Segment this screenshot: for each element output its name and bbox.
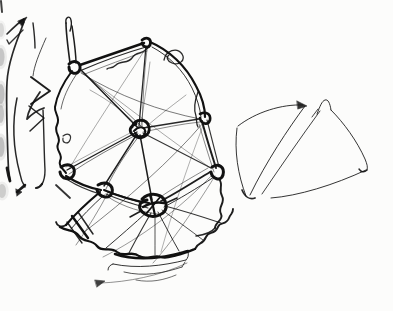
right-edge-wavy (215, 179, 223, 228)
long-left-blob (7, 168, 10, 181)
edge-ae-2 (61, 75, 76, 109)
scanned-paper (0, 0, 393, 311)
spike-right (72, 26, 76, 63)
spoke-dh-1 (161, 172, 210, 201)
under-arc-2 (124, 267, 182, 274)
spoke-ge-3 (66, 130, 136, 167)
fan-long-1 (83, 122, 204, 233)
center-tick-left (130, 211, 141, 217)
left-edge-loop (63, 134, 71, 143)
leaf2-right (331, 110, 367, 170)
arc-bc-1 (150, 42, 205, 117)
vert-tick (33, 23, 35, 48)
descender-2-hook (36, 184, 42, 188)
leaf1-left (236, 128, 246, 196)
spoke-gh (140, 135, 152, 200)
under-arc-1-hook-left (108, 264, 113, 270)
spoke-right (165, 206, 221, 223)
edge-artifacts (1, 1, 2, 12)
under-arrow-head (95, 280, 105, 287)
top-flower (55, 17, 223, 200)
spoke-gf-1 (104, 134, 137, 186)
long-left-curve (7, 22, 24, 180)
under-arc-1 (113, 260, 186, 267)
leaf1-tip (297, 101, 307, 109)
knot-d (211, 165, 223, 179)
edge-ef-2 (68, 180, 100, 194)
hatch-4 (56, 185, 70, 198)
bundle-cd-3 (199, 124, 214, 172)
descender-2 (42, 110, 45, 184)
leaf2-left-diagonal (262, 111, 320, 194)
spoke-gf-2 (106, 136, 139, 189)
spike-left (66, 23, 70, 63)
edge-ab-3 (85, 51, 147, 74)
edge-ab-1 (80, 43, 144, 65)
leaf1-diagonal (250, 106, 305, 195)
spoke-gd (143, 133, 211, 168)
right-leaf-shapes (236, 100, 367, 199)
left-doodle (7, 17, 50, 196)
spoke-dh-2 (164, 177, 214, 207)
sketch-canvas (0, 0, 393, 311)
descender-1 (14, 98, 25, 187)
spoke-ge-2 (69, 134, 138, 174)
spoke-dh-3 (159, 168, 208, 198)
spoke-b4 (158, 212, 179, 251)
leaf2-bottom (271, 170, 366, 198)
edge-left-2 (71, 195, 104, 229)
wave-above-c (195, 92, 198, 127)
corner-tick (1, 1, 2, 12)
hook-bottom-left (56, 222, 66, 226)
